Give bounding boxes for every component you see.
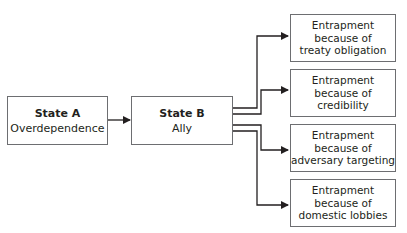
state-a-subtitle: Overdependence <box>10 121 104 136</box>
outcome-line: Entrapment <box>312 184 374 197</box>
outcome-line: Entrapment <box>312 19 374 32</box>
outcome-line: because of <box>314 197 371 210</box>
outcome-domestic-lobbies: Entrapment because of domestic lobbies <box>290 179 396 227</box>
state-b-title: State B <box>159 106 205 121</box>
state-a-box: State A Overdependence <box>7 96 108 145</box>
state-b-subtitle: Ally <box>172 121 192 136</box>
state-a-title: State A <box>35 106 81 121</box>
outcome-line: adversary targeting <box>291 154 395 167</box>
outcome-line: credibility <box>317 99 369 112</box>
outcome-line: domestic lobbies <box>299 209 388 222</box>
outcome-adversary-targeting: Entrapment because of adversary targetin… <box>290 124 396 172</box>
outcome-line: Entrapment <box>312 129 374 142</box>
outcome-line: Entrapment <box>312 74 374 87</box>
outcome-credibility: Entrapment because of credibility <box>290 69 396 117</box>
outcome-line: because of <box>314 87 371 100</box>
arrow-to-credibility <box>232 90 288 114</box>
arrow-to-domestic <box>232 131 288 205</box>
arrow-to-adversary <box>232 125 288 150</box>
outcome-line: because of <box>314 142 371 155</box>
outcome-treaty-obligation: Entrapment because of treaty obligation <box>290 14 396 62</box>
outcome-line: treaty obligation <box>300 44 387 57</box>
state-b-box: State B Ally <box>131 96 233 145</box>
outcome-line: because of <box>314 32 371 45</box>
arrow-to-treaty <box>232 36 288 108</box>
